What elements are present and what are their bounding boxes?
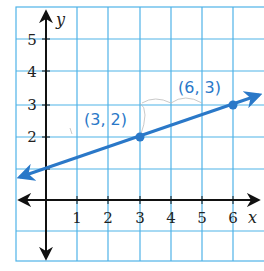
x-tick-5: 5 <box>197 209 207 227</box>
x-tick-2: 2 <box>103 209 113 227</box>
point-label-6-3: (6, 3) <box>178 78 221 97</box>
point-3-2 <box>136 133 145 142</box>
y-tick-4: 4 <box>27 63 37 81</box>
point-6-3 <box>229 101 238 110</box>
y-axis-label: y <box>55 10 66 29</box>
x-tick-3: 3 <box>135 209 145 227</box>
y-tick-labels: 5 4 3 2 <box>27 31 37 146</box>
x-tick-4: 4 <box>166 209 176 227</box>
y-tick-2: 2 <box>27 128 37 146</box>
y-tick-3: 3 <box>27 96 37 114</box>
y-tick-5: 5 <box>27 31 37 49</box>
x-axis-label: x <box>248 208 257 227</box>
x-tick-6: 6 <box>228 209 238 227</box>
x-tick-1: 1 <box>72 209 82 227</box>
x-tick-labels: 1 2 3 4 5 6 <box>72 209 238 227</box>
point-label-3-2: (3, 2) <box>84 110 127 129</box>
coordinate-graph: y x 5 4 3 2 1 2 3 4 5 6 (3, 2) (6, 3) <box>0 0 264 271</box>
